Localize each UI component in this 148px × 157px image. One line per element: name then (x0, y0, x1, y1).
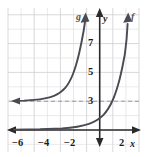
y-tick-label-7: 7 (88, 37, 93, 48)
x-tick-label-neg6: −6 (12, 137, 23, 148)
x-tick-label-2: 2 (119, 137, 124, 148)
x-axis-label: x (129, 138, 135, 149)
x-tick-label-neg4: −4 (38, 137, 50, 148)
x-tick-label-neg2: −2 (64, 137, 75, 148)
curve-g-label: g (75, 11, 81, 22)
y-tick-label-5: 5 (88, 66, 93, 77)
graph-canvas: −6 −4 −2 2 7 5 3 y x g f (0, 0, 148, 157)
y-tick-label-3: 3 (88, 95, 93, 106)
exponential-functions-graph: −6 −4 −2 2 7 5 3 y x g f (0, 0, 148, 157)
y-tick-labels: 7 5 3 (88, 37, 93, 106)
y-axis-label: y (102, 13, 108, 24)
